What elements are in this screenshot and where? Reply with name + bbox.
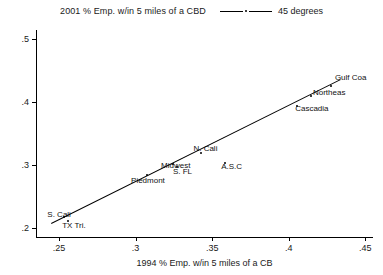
legend-key-45-degrees: 45 degrees: [220, 6, 323, 16]
plot-area: .2.3.4.5 .25.3.35.4.45 Gulf CoaNortheasC…: [36, 30, 373, 237]
y-tick-label: .3: [21, 160, 29, 170]
legend-line-swatch-2: [249, 11, 272, 12]
legend-dot-swatch: [245, 10, 247, 12]
x-tick-mark: [365, 237, 366, 241]
x-axis-line: [36, 237, 373, 238]
y-tick-label: .5: [21, 34, 29, 44]
y-tick-mark: [32, 228, 36, 229]
x-tick-mark: [212, 237, 213, 241]
data-point-label: TX Tri.: [62, 221, 86, 230]
legend-line-swatch: [220, 11, 243, 12]
data-point-label: S. FL: [173, 167, 192, 176]
x-tick-mark: [59, 237, 60, 241]
x-tick-label: .25: [53, 243, 66, 253]
x-tick-mark: [136, 237, 137, 241]
y-tick-mark: [32, 102, 36, 103]
x-tick-label: .45: [359, 243, 372, 253]
reference-line-45-degrees: [51, 79, 341, 224]
legend-line-label: 45 degrees: [278, 6, 323, 16]
y-tick-mark: [32, 39, 36, 40]
y-tick-label: .2: [21, 223, 29, 233]
x-axis-title: 1994 % Emp. w/in 5 miles of a CB: [36, 258, 373, 268]
x-tick-label: .4: [285, 243, 293, 253]
x-tick-mark: [289, 237, 290, 241]
legend-series-label: 2001 % Emp. w/in 5 miles of a CBD: [60, 6, 206, 16]
data-point-label: A.S.C: [221, 162, 242, 171]
x-tick-label: .35: [206, 243, 219, 253]
data-point-label: Cascadia: [295, 104, 328, 113]
y-axis-line: [36, 30, 37, 237]
y-tick-label: .4: [21, 97, 29, 107]
x-tick-label: .3: [132, 243, 140, 253]
chart-legend: 2001 % Emp. w/in 5 miles of a CBD 45 deg…: [0, 6, 383, 16]
scatter-chart: 2001 % Emp. w/in 5 miles of a CBD 45 deg…: [0, 0, 383, 275]
y-tick-mark: [32, 165, 36, 166]
